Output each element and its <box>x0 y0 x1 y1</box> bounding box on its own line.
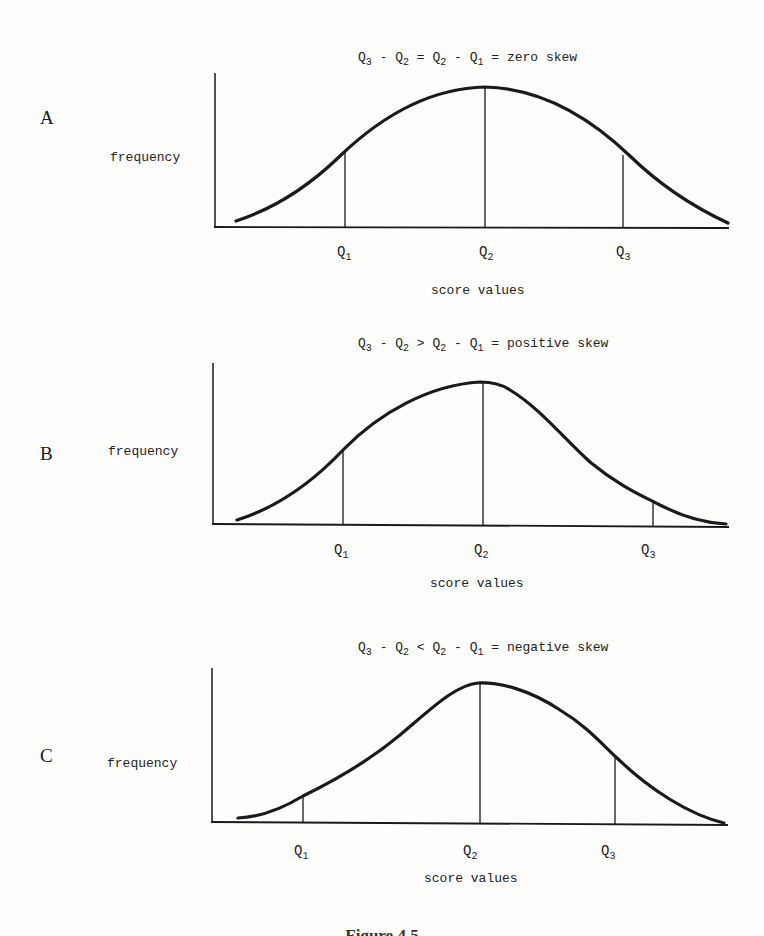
quartile-lines-b <box>343 383 653 527</box>
figure-caption: Figure 4.5 <box>0 925 764 936</box>
distribution-curve-c <box>238 683 724 823</box>
axes-a <box>214 73 729 228</box>
skew-diagrams <box>0 0 764 936</box>
quartile-lines-c <box>303 683 615 825</box>
distribution-curve-a <box>236 87 728 223</box>
quartile-lines-a <box>345 87 623 227</box>
axes-c <box>211 668 728 825</box>
